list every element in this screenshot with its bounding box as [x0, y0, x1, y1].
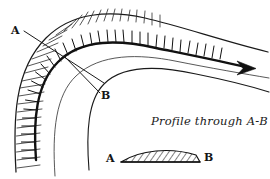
leader-line-b: [64, 56, 100, 93]
map-label-a: A: [11, 25, 20, 36]
profile-lens: [121, 151, 200, 162]
arrow-head-icon: [237, 61, 256, 75]
geomorphic-sketch-figure: [0, 0, 270, 179]
profile-caption: Profile through A-B: [151, 114, 268, 128]
profile-label-b: B: [204, 152, 213, 163]
map-label-b: B: [101, 90, 110, 101]
hachured-crest-line: [35, 43, 250, 160]
profile-label-a: A: [106, 153, 115, 164]
leader-line-a: [24, 31, 104, 83]
